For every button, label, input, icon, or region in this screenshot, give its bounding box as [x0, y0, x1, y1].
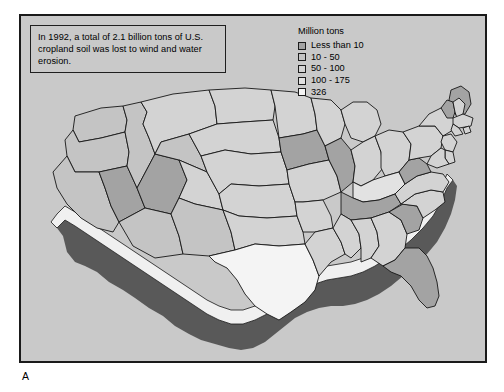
map-extrusion-side — [51, 174, 453, 324]
state-mississippi — [333, 214, 361, 258]
state-pennsylvania — [403, 126, 443, 160]
legend-swatch-less-than-10 — [298, 42, 306, 50]
caption-box: In 1992, a total of 2.1 billion tons of … — [30, 25, 226, 73]
state-new-mexico — [171, 198, 235, 256]
state-california — [53, 156, 119, 232]
state-west-virginia — [399, 158, 431, 184]
state-virginia — [395, 172, 449, 204]
legend-label-50-100: 50 - 100 — [311, 63, 345, 74]
state-louisiana — [305, 228, 345, 276]
state-massachusetts — [453, 114, 473, 128]
state-vermont — [441, 100, 455, 118]
state-colorado — [179, 160, 223, 210]
state-michigan — [341, 102, 381, 142]
state-alabama — [351, 218, 379, 262]
state-tennessee — [341, 192, 401, 220]
state-nebraska — [201, 150, 289, 194]
legend-label-10-50: 10 - 50 — [311, 52, 340, 63]
state-new-hampshire — [453, 98, 465, 118]
state-idaho — [123, 102, 155, 188]
legend-item-326: 326 — [298, 86, 428, 98]
state-wyoming — [155, 134, 207, 172]
state-south-dakota — [189, 120, 281, 156]
state-north-carolina — [401, 190, 445, 218]
legend-label-326: 326 — [311, 87, 326, 98]
legend-label-less-than-10: Less than 10 — [311, 40, 364, 51]
state-new-york — [419, 108, 459, 136]
legend-item-less-than-10: Less than 10 — [298, 40, 428, 52]
figure-container: In 1992, a total of 2.1 billion tons of … — [0, 0, 504, 392]
legend-swatch-100-175 — [298, 77, 306, 85]
figure-letter-label: A — [22, 370, 29, 382]
state-connecticut — [451, 124, 463, 136]
map-figure-panel: In 1992, a total of 2.1 billion tons of … — [19, 14, 487, 363]
state-ohio — [375, 130, 411, 176]
state-wisconsin — [311, 98, 345, 146]
state-rhode-island — [463, 126, 471, 134]
state-utah — [137, 154, 187, 214]
state-indiana — [351, 136, 383, 186]
state-kansas — [219, 184, 297, 218]
legend-item-100-175: 100 - 175 — [298, 75, 428, 87]
state-north-dakota — [209, 88, 275, 124]
state-missouri — [287, 160, 341, 202]
map-drop-shadow — [57, 180, 457, 350]
legend-swatch-326 — [298, 88, 306, 96]
state-new-jersey — [441, 134, 457, 152]
state-oregon — [65, 130, 129, 172]
legend-swatch-10-50 — [298, 53, 306, 61]
state-kentucky — [353, 172, 405, 202]
state-oklahoma — [223, 210, 305, 250]
state-polygons — [53, 86, 473, 320]
state-arkansas — [295, 200, 333, 232]
state-delaware — [445, 150, 455, 164]
state-nevada — [99, 166, 145, 222]
state-montana — [141, 90, 217, 154]
state-maryland — [427, 148, 449, 168]
map-legend: Million tons Less than 10 10 - 50 50 - 1… — [298, 26, 428, 98]
map-svg — [23, 76, 485, 356]
legend-item-10-50: 10 - 50 — [298, 52, 428, 64]
legend-item-50-100: 50 - 100 — [298, 63, 428, 75]
state-iowa — [279, 130, 329, 170]
state-maine — [449, 86, 471, 116]
state-texas — [209, 244, 319, 320]
state-illinois — [325, 138, 355, 192]
legend-swatch-50-100 — [298, 65, 306, 73]
legend-title: Million tons — [298, 26, 428, 37]
state-arizona — [119, 208, 183, 258]
caption-text: In 1992, a total of 2.1 billion tons of … — [38, 31, 218, 68]
state-south-carolina — [389, 204, 423, 234]
state-georgia — [371, 212, 407, 266]
legend-label-100-175: 100 - 175 — [311, 75, 350, 86]
state-florida — [383, 248, 439, 308]
state-washington — [73, 106, 127, 142]
